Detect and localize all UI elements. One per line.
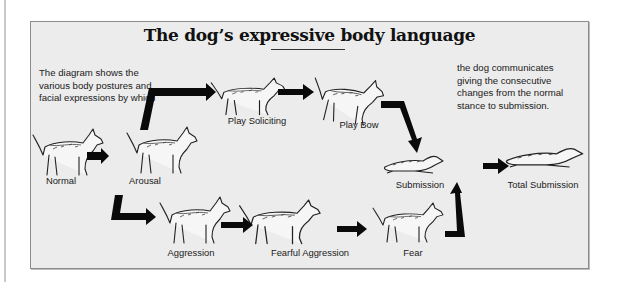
page-margin-line — [4, 0, 6, 282]
stage-label-total-submission: Total Submission — [508, 179, 579, 190]
diagram-graphics — [31, 22, 588, 268]
arrow-fearful-aggression-to-fear — [337, 221, 367, 237]
stage-label-fear: Fear — [403, 247, 422, 258]
stage-label-submission: Submission — [396, 179, 444, 190]
arrow-arousal-to-play-soliciting — [140, 83, 216, 130]
arrow-arousal-to-aggression — [111, 195, 156, 225]
stage-label-aggression: Aggression — [168, 247, 215, 258]
dog-figure-fear — [373, 203, 443, 242]
dog-figure-submission — [384, 156, 443, 173]
diagram-panel: The dog’s expressive body language The d… — [30, 21, 589, 269]
stage-label-play-bow: Play Bow — [339, 119, 378, 130]
dog-figure-fearful-aggression — [240, 200, 321, 244]
stage-label-normal: Normal — [46, 175, 76, 186]
stage-label-play-soliciting: Play Soliciting — [228, 115, 286, 126]
stage-label-fearful-aggression: Fearful Aggression — [271, 247, 349, 258]
dog-figure-play-soliciting — [211, 78, 285, 115]
arrow-submission-to-total-submission — [483, 158, 509, 174]
dog-figure-aggression — [160, 197, 230, 243]
dog-figure-arousal — [127, 127, 197, 173]
arrow-fear-to-submission — [445, 182, 465, 237]
arrow-play-bow-to-submission — [381, 101, 422, 153]
dog-figure-total-submission — [507, 149, 583, 167]
stage-label-arousal: Arousal — [129, 175, 161, 186]
